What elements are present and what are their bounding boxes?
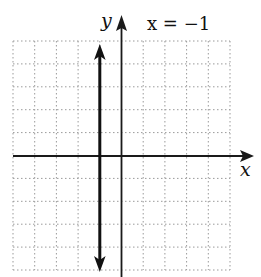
y-axis: [116, 15, 127, 277]
x-axis-label: x: [240, 158, 251, 180]
x-axis: [13, 150, 254, 162]
equation-label: x = −1: [147, 13, 210, 34]
vertical-line-x-eq-neg1: [94, 44, 106, 272]
y-axis-label: y: [100, 9, 112, 31]
coordinate-graph: y x x = −1: [0, 0, 261, 277]
